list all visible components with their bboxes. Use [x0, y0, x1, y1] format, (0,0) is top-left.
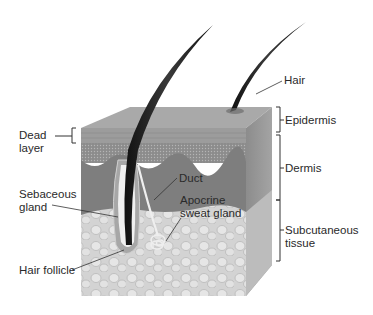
dead-layer: [81, 128, 246, 143]
dead-layer-bracket: [55, 128, 76, 143]
label-duct: Duct: [179, 172, 203, 185]
leader-hair: [256, 81, 282, 94]
layer-bracket-right: [276, 107, 284, 261]
label-apocrine-sweat-gland: Apocrine sweat gland: [180, 194, 241, 220]
label-dermis: Dermis: [285, 162, 321, 175]
label-hair: Hair: [284, 74, 305, 87]
label-subcutaneous-tissue: Subcutaneous tissue: [285, 224, 359, 250]
label-epidermis: Epidermis: [285, 114, 336, 127]
label-hair-follicle: Hair follicle: [19, 264, 75, 277]
label-dead-layer: Dead layer: [19, 129, 47, 155]
epidermis-layer: [81, 143, 246, 163]
hair-shaft-right: [230, 22, 306, 112]
label-sebaceous-gland: Sebaceous gland: [19, 188, 77, 214]
